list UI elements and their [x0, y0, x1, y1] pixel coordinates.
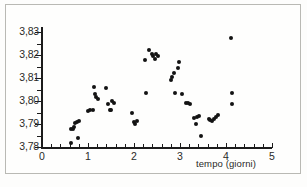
x-tick-minor	[189, 144, 190, 148]
x-tick-major	[272, 143, 273, 148]
data-point	[106, 102, 110, 106]
data-point	[176, 66, 180, 70]
data-point	[144, 91, 148, 95]
y-tick-minor	[37, 67, 41, 68]
x-tick-label: 1	[80, 150, 96, 162]
data-point	[130, 111, 134, 115]
data-point	[72, 125, 76, 129]
data-point	[104, 86, 108, 90]
x-tick-minor	[208, 144, 209, 148]
y-tick-minor	[37, 44, 41, 45]
x-tick-minor	[79, 144, 80, 148]
x-tick-minor	[143, 144, 144, 148]
y-tick-label: 3,82	[3, 48, 39, 60]
x-tick-minor	[254, 144, 255, 148]
x-tick-minor	[106, 144, 107, 148]
x-tick-major	[88, 143, 89, 148]
x-tick-minor	[51, 144, 52, 148]
data-point	[91, 108, 95, 112]
x-tick-minor	[152, 144, 153, 148]
data-point	[135, 119, 139, 123]
y-tick-label: 3,79	[3, 117, 39, 129]
x-axis-line	[41, 147, 272, 149]
x-tick-label: 0	[34, 150, 50, 162]
x-tick-label: 3	[172, 150, 188, 162]
data-point	[112, 101, 116, 105]
data-point	[170, 75, 174, 79]
x-tick-minor	[235, 144, 236, 148]
y-tick-minor	[37, 113, 41, 114]
data-point	[77, 119, 81, 123]
data-point	[143, 58, 147, 62]
data-point	[92, 85, 96, 89]
data-point	[230, 102, 234, 106]
x-tick-minor	[162, 144, 163, 148]
y-tick-minor	[37, 136, 41, 137]
y-tick-label: 3,80	[3, 94, 39, 106]
x-tick-minor	[217, 144, 218, 148]
x-tick-label: 5	[264, 150, 280, 162]
x-tick-label: 2	[126, 150, 142, 162]
data-point	[194, 122, 198, 126]
data-point	[156, 54, 160, 58]
plot-area: 3,783,793,803,813,823,83 012345 tempo (g…	[0, 0, 307, 187]
y-tick-minor	[37, 90, 41, 91]
data-point	[177, 60, 181, 64]
x-tick-minor	[60, 144, 61, 148]
x-tick-minor	[125, 144, 126, 148]
x-tick-minor	[171, 144, 172, 148]
data-point	[230, 91, 234, 95]
x-tick-major	[42, 143, 43, 148]
x-tick-minor	[244, 144, 245, 148]
x-tick-major	[226, 143, 227, 148]
data-point	[180, 92, 184, 96]
data-point	[153, 57, 157, 61]
x-tick-major	[180, 143, 181, 148]
data-point	[199, 134, 203, 138]
y-axis-line	[41, 27, 43, 149]
data-point	[188, 102, 192, 106]
x-tick-minor	[198, 144, 199, 148]
y-tick-label: 3,83	[3, 25, 39, 37]
x-tick-minor	[263, 144, 264, 148]
x-tick-major	[134, 143, 135, 148]
x-axis-title: tempo (giorni)	[196, 158, 256, 169]
data-point	[216, 113, 220, 117]
y-tick-label: 3,81	[3, 71, 39, 83]
x-tick-minor	[97, 144, 98, 148]
data-point	[197, 114, 201, 118]
x-tick-minor	[116, 144, 117, 148]
data-point	[96, 97, 100, 101]
data-point	[172, 71, 176, 75]
data-point	[69, 141, 73, 145]
data-point	[173, 91, 177, 95]
data-point	[229, 36, 233, 40]
data-point	[109, 108, 113, 112]
data-point	[76, 136, 80, 140]
figure-container: 3,783,793,803,813,823,83 012345 tempo (g…	[0, 0, 307, 187]
